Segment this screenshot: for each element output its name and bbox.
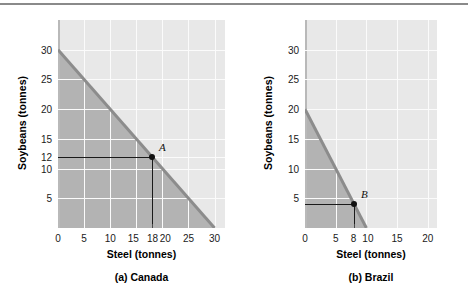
x-tick-label: 10 [105, 233, 116, 244]
guide-line-horizontal-a [58, 157, 152, 158]
x-axis-title-brazil: Steel (tonnes) [234, 248, 468, 260]
x-tick-label: 5 [81, 233, 87, 244]
x-tick-label: 8 [351, 233, 357, 244]
panel-caption-canada: (a) Canada [0, 271, 259, 283]
x-tick-label: 30 [209, 233, 220, 244]
production-possibilities-figure: A 5101215202530 05101518202530 Soybeans … [0, 0, 468, 292]
y-tick-label: 15 [273, 133, 299, 144]
y-tick-label: 20 [273, 104, 299, 115]
x-tick-label: 18 [147, 233, 158, 244]
panel-caption-brazil: (b) Brazil [234, 271, 468, 283]
ppf-line-canada [58, 20, 225, 228]
x-tick-mark [152, 224, 153, 228]
y-tick-label: 5 [26, 193, 52, 204]
plot-area-brazil: B [305, 20, 437, 228]
ppf-line-segment [305, 109, 366, 228]
x-tick-label: 5 [333, 233, 339, 244]
x-tick-label: 20 [160, 233, 171, 244]
ppf-line-brazil [305, 20, 437, 228]
y-tick-label: 20 [26, 104, 52, 115]
x-tick-label: 20 [422, 233, 433, 244]
y-tick-label: 30 [273, 44, 299, 55]
y-tick-label: 10 [26, 163, 52, 174]
ppf-line-segment [58, 50, 215, 228]
panel-brazil: B 51015202530 058101520 Soybeans (tonnes… [234, 0, 468, 292]
x-tick-mark [354, 224, 355, 228]
x-tick-label: 15 [128, 233, 139, 244]
y-tick-label: 12 [26, 151, 52, 162]
y-tick-label: 25 [273, 74, 299, 85]
point-label-a: A [159, 141, 166, 153]
x-axis-title-canada: Steel (tonnes) [0, 248, 259, 260]
y-tick-label: 10 [273, 163, 299, 174]
y-tick-label: 15 [26, 133, 52, 144]
x-tick-label: 15 [392, 233, 403, 244]
point-marker-a [149, 154, 155, 160]
y-axis-title-canada: Soybeans (tonnes) [16, 48, 28, 198]
guide-line-vertical-a [152, 157, 153, 228]
y-axis-title-brazil: Soybeans (tonnes) [262, 48, 274, 198]
guide-line-horizontal-b [305, 204, 354, 205]
x-tick-label: 10 [362, 233, 373, 244]
x-tick-label: 25 [183, 233, 194, 244]
y-tick-label: 30 [26, 44, 52, 55]
x-tick-label: 0 [302, 233, 308, 244]
point-label-b: B [361, 188, 368, 200]
y-tick-label: 5 [273, 193, 299, 204]
y-tick-label: 25 [26, 74, 52, 85]
plot-area-canada: A [58, 20, 225, 228]
x-tick-label: 0 [55, 233, 61, 244]
panel-canada: A 5101215202530 05101518202530 Soybeans … [0, 0, 234, 292]
